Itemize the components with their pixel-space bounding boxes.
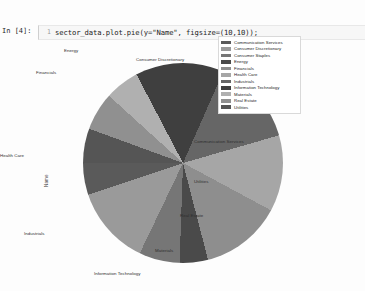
wedge-label: Consumer Discretionary [136,57,184,63]
wedge-label: Real Estate [180,213,203,219]
legend-swatch [221,54,231,58]
legend-item-label: Energy [234,59,248,64]
wedge-label: Industrials [24,231,45,237]
legend-item: Consumer Staples [221,52,297,58]
legend-item-label: Materials [234,92,252,97]
wedge-label: Health Care [0,153,24,159]
wedge-label: Financials [36,70,56,76]
wedge-label: Energy [64,48,78,54]
legend-item: Industrials [221,78,297,84]
scan-artifacts [0,275,365,285]
legend-item-label: Consumer Staples [234,53,270,58]
legend-item-label: Communication Services [234,40,283,45]
legend-swatch [221,99,231,103]
legend-item-label: Utilities [234,105,248,110]
matplotlib-figure: Name EnergyConsumer DiscretionaryFinanci… [0,32,365,291]
chart-legend: Communication ServicesConsumer Discretio… [218,36,301,114]
legend-item: Materials [221,91,297,97]
legend-item-label: Health Care [234,72,257,77]
legend-swatch [221,47,231,51]
legend-item: Consumer Discretionary [221,46,297,52]
legend-swatch [221,73,231,77]
legend-swatch [221,67,231,71]
legend-swatch [221,86,231,90]
legend-item-label: Financials [234,66,254,71]
wedge-label: Utilities [194,179,209,185]
legend-item-label: Real Estate [234,98,257,103]
legend-item: Health Care [221,72,297,78]
legend-swatch [221,41,231,45]
legend-item: Real Estate [221,98,297,104]
y-axis-label: Name [44,174,49,187]
legend-swatch [221,105,231,109]
legend-item-label: Industrials [234,79,254,84]
legend-item: Communication Services [221,39,297,45]
legend-item: Utilities [221,104,297,110]
legend-swatch [221,80,231,84]
wedge-label: Communication Services [194,139,244,145]
wedge-label: Materials [155,248,173,254]
wedge-label: Information Technology [94,271,140,277]
legend-item-label: Information Technology [234,85,279,90]
legend-item: Information Technology [221,85,297,91]
legend-swatch [221,92,231,96]
legend-swatch [221,60,231,64]
notebook-output-area: In [4]: 1 sector_data.plot.pie(y="Name",… [0,0,365,291]
legend-item: Energy [221,59,297,65]
legend-item: Financials [221,65,297,71]
legend-item-label: Consumer Discretionary [234,46,281,51]
